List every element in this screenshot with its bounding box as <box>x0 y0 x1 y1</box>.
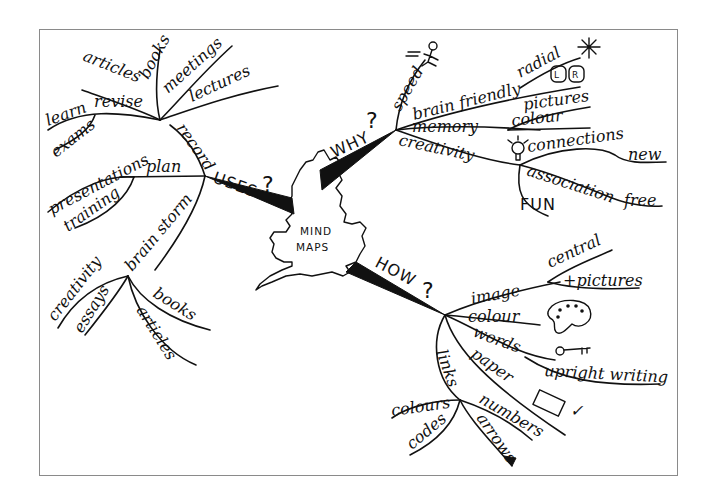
central-label: central <box>544 230 604 272</box>
plus-pictures-label: +pictures <box>563 271 643 290</box>
palette-icon <box>548 300 591 333</box>
left-right-brain-icon: L R <box>551 66 584 82</box>
links-label: links <box>432 347 463 390</box>
upright-writing-label: upright writing <box>544 361 669 386</box>
memory-label: memory <box>412 117 479 136</box>
uses-question-mark: ? <box>262 172 275 197</box>
svg-text:L: L <box>554 70 560 80</box>
center-label-mind: MIND <box>300 225 332 237</box>
landscape-paper-icon <box>533 390 565 416</box>
paper-checkmark: ✓ <box>570 401 584 420</box>
colour-why-label: colour <box>510 106 564 130</box>
free-label: free <box>623 191 657 210</box>
uses-label: USES <box>211 168 261 202</box>
brain-storm-label: brain storm <box>121 190 197 275</box>
why-question-mark: ? <box>366 108 379 133</box>
revise-label: revise <box>94 92 143 111</box>
fun-label: FUN <box>520 195 556 214</box>
image-label: image <box>469 281 521 308</box>
center-label-maps: MAPS <box>296 241 329 253</box>
svg-text:R: R <box>572 70 579 80</box>
running-figure-icon <box>406 42 438 66</box>
lightbulb-icon <box>508 136 528 160</box>
articles-label: articles <box>81 46 144 86</box>
how-question-mark: ? <box>422 278 435 303</box>
key-icon <box>556 347 590 355</box>
radial-burst-icon <box>578 38 600 58</box>
branch-how <box>346 262 565 435</box>
mind-map-canvas: MIND MAPS USES ? record articles books m… <box>0 0 713 503</box>
new-label: new <box>628 145 662 164</box>
